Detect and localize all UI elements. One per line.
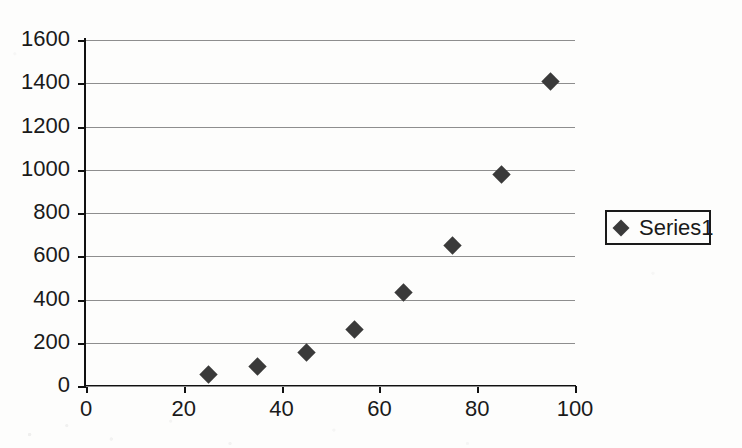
x-axis-tick-mark [477,386,479,393]
data-point-marker [444,237,462,255]
y-axis-tick-label: 0 [10,374,76,396]
gridline [86,127,575,128]
y-axis-tick-value: 600 [10,244,70,266]
y-axis-tick-value: 1600 [10,28,70,50]
x-axis-tick-label: 0 [51,397,121,421]
x-axis-tick-label: 100 [540,397,610,421]
y-axis-tick-label: 200 [10,331,76,353]
x-axis-tick-label: 60 [344,397,414,421]
y-axis-tick-label: 600 [10,244,76,266]
data-point-marker [346,320,364,338]
x-axis-tick-label: 80 [442,397,512,421]
y-axis-tick-label: 400 [10,288,76,310]
gridline [86,83,575,84]
chart-legend: Series1 [605,210,711,245]
gridline [86,256,575,257]
y-axis-tick-value: 400 [10,288,70,310]
x-axis-tick-mark [282,386,284,393]
gridline [86,40,575,41]
y-axis-tick-label: 800 [10,201,76,223]
data-point-marker [199,365,217,383]
gridline [86,386,575,387]
x-axis-tick-label: 40 [247,397,317,421]
gridline [86,343,575,344]
gridline [86,300,575,301]
data-point-marker [541,72,559,90]
data-point-marker [492,165,510,183]
x-axis-tick-label: 20 [149,397,219,421]
x-axis-tick-mark [86,386,88,393]
y-axis-tick-label: 1600 [10,28,76,50]
chart-page: 02004006008001000120014001600 0204060801… [0,0,742,448]
data-point-marker [297,343,315,361]
y-axis-tick-value: 0 [10,374,70,396]
y-axis-tick-value: 200 [10,331,70,353]
x-axis-tick-mark [575,386,577,393]
y-axis-tick-label: 1400 [10,71,76,93]
y-axis-tick-label: 1000 [10,158,76,180]
plot-area [86,40,575,386]
x-axis-tick-mark [379,386,381,393]
y-axis-tick-value: 1000 [10,158,70,180]
y-axis-tick-label: 1200 [10,115,76,137]
diamond-marker-icon [613,219,630,236]
y-axis-tick-value: 800 [10,201,70,223]
gridline [86,213,575,214]
x-axis-tick-mark [184,386,186,393]
y-axis-tick-value: 1400 [10,71,70,93]
legend-entry-label: Series1 [639,217,714,239]
y-axis-tick-value: 1200 [10,115,70,137]
data-point-marker [248,357,266,375]
